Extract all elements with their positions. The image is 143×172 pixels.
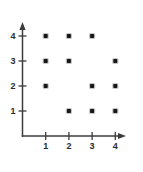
data-point — [66, 33, 72, 39]
y-tick-label-1: 1 — [10, 106, 15, 116]
data-point — [43, 58, 49, 64]
y-tick-label-4: 4 — [10, 31, 15, 41]
data-point — [43, 33, 49, 39]
data-point-marker — [113, 84, 117, 88]
data-point-marker — [113, 109, 117, 113]
data-point — [89, 108, 95, 114]
data-point — [89, 83, 95, 89]
x-axis-group — [23, 133, 127, 139]
scatter-plot-figure: 1234 1234 — [0, 0, 143, 172]
data-point-marker — [90, 84, 94, 88]
x-axis-ticks: 1234 — [43, 132, 118, 151]
data-point — [112, 58, 118, 64]
plot-canvas: 1234 1234 — [0, 0, 143, 172]
data-point-marker — [44, 84, 48, 88]
data-point — [89, 33, 95, 39]
data-point-marker — [67, 34, 71, 38]
x-axis-arrowhead — [118, 133, 126, 139]
data-point-marker — [44, 59, 48, 63]
data-point-marker — [44, 34, 48, 38]
data-point — [112, 83, 118, 89]
x-tick-label-4: 4 — [113, 141, 118, 151]
y-tick-label-3: 3 — [10, 56, 15, 66]
data-point-marker — [90, 34, 94, 38]
data-point — [66, 108, 72, 114]
data-point-marker — [113, 59, 117, 63]
data-point-marker — [90, 109, 94, 113]
y-axis-group — [19, 22, 25, 136]
x-tick-label-2: 2 — [66, 141, 71, 151]
x-tick-label-3: 3 — [90, 141, 95, 151]
x-tick-label-1: 1 — [43, 141, 48, 151]
data-point — [43, 83, 49, 89]
y-axis-arrowhead — [19, 22, 25, 30]
data-point-series — [43, 33, 119, 114]
data-point — [66, 58, 72, 64]
data-point-marker — [67, 59, 71, 63]
data-point — [112, 108, 118, 114]
y-axis-ticks: 1234 — [10, 31, 26, 116]
y-tick-label-2: 2 — [10, 81, 15, 91]
data-point-marker — [67, 109, 71, 113]
